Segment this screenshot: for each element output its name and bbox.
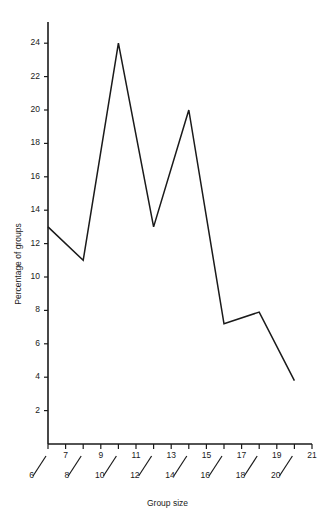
line-chart: 24681012141618202224 79111315171921 6810… — [0, 0, 335, 528]
x-axis-title-text: Group size — [147, 498, 188, 508]
x-axis-tick-label: 21 — [298, 451, 326, 460]
y-axis-tick-label: 6 — [0, 339, 40, 348]
x-axis-title: Group size — [0, 498, 335, 508]
y-axis-tick-label: 10 — [0, 272, 40, 281]
x-axis-tick-label: 7 — [52, 451, 80, 460]
data-series-line — [48, 43, 294, 380]
x-axis-offset-tick-label: 8 — [51, 471, 69, 480]
x-axis-tick-label: 11 — [122, 451, 150, 460]
y-axis-tick-label: 2 — [0, 406, 40, 415]
y-axis-tick-label: 4 — [0, 372, 40, 381]
y-axis-tick-label: 22 — [0, 72, 40, 81]
x-axis-tick-label: 15 — [192, 451, 220, 460]
x-axis-offset-tick-label: 18 — [227, 471, 245, 480]
y-axis-tick-label: 8 — [0, 305, 40, 314]
y-axis-tick-label: 12 — [0, 239, 40, 248]
y-axis-tick-label: 20 — [0, 105, 40, 114]
x-axis-offset-tick-label: 14 — [157, 471, 175, 480]
y-axis-tick-label: 24 — [0, 38, 40, 47]
y-axis-tick-label: 14 — [0, 205, 40, 214]
y-axis-tick-label: 18 — [0, 138, 40, 147]
x-axis-tick-label: 13 — [157, 451, 185, 460]
x-axis-tick-label: 9 — [87, 451, 115, 460]
x-axis-leader-line — [33, 456, 46, 476]
x-axis-offset-tick-label: 12 — [122, 471, 140, 480]
x-axis-tick-label: 19 — [263, 451, 291, 460]
x-axis-offset-tick-label: 6 — [16, 471, 34, 480]
plot-area — [0, 0, 335, 528]
x-axis-tick-label: 17 — [228, 451, 256, 460]
x-axis-offset-tick-label: 10 — [86, 471, 104, 480]
y-axis-tick-label: 16 — [0, 172, 40, 181]
x-axis-offset-tick-label: 16 — [192, 471, 210, 480]
x-axis-offset-tick-label: 20 — [262, 471, 280, 480]
